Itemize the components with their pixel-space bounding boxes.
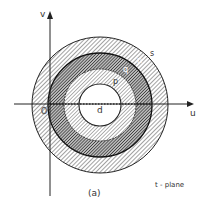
region-s-label: s [150,49,154,58]
region-q-label: q [123,65,128,74]
t-plane-diagram: v u O d s n q p (a) t - plane [0,0,211,209]
center-label: d [97,105,103,115]
region-n-label: n [137,56,142,65]
region-p-label: p [113,77,118,86]
figure-caption: (a) [88,188,101,198]
plane-label: t - plane [155,181,184,189]
u-axis-arrow-icon [187,101,194,107]
v-axis-label: v [40,9,46,19]
v-axis-arrow-icon [47,11,53,19]
origin-label: O [41,107,47,116]
u-axis-label: u [190,108,196,118]
